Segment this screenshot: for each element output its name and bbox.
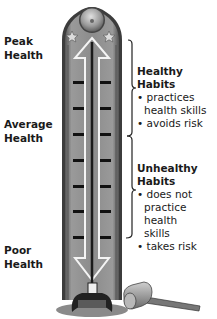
peak-line-1: Peak <box>4 34 43 48</box>
healthy-bullet-1: practices health skills <box>137 91 217 117</box>
unhealthy-bullet-2: takes risk <box>137 240 217 253</box>
poor-line-2: Health <box>4 257 43 271</box>
unhealthy-bullet-1: does not practice health skills <box>137 188 217 240</box>
mallet-icon <box>124 282 200 311</box>
peak-health-label: Peak Health <box>4 34 43 62</box>
average-health-label: Average Health <box>4 117 53 145</box>
healthy-habits-title: Healthy Habits <box>137 65 217 91</box>
healthy-bracket <box>127 40 136 136</box>
healthy-habits-block: Healthy Habits practices health skills a… <box>137 65 217 130</box>
bullet-text: takes risk <box>147 240 197 252</box>
bullet-text: practices <box>147 91 195 103</box>
unhealthy-bracket <box>126 136 136 238</box>
average-line-1: Average <box>4 117 53 131</box>
bullet-text: avoids risk <box>147 117 203 129</box>
bullet-text: skills <box>144 227 170 239</box>
title-line: Habits <box>137 175 175 187</box>
bullet-text: does not <box>147 188 193 200</box>
poor-health-label: Poor Health <box>4 243 43 271</box>
bell-icon <box>79 7 105 33</box>
healthy-bullet-2: avoids risk <box>137 117 217 130</box>
bullet-text: practice health <box>144 201 186 226</box>
average-line-2: Health <box>4 131 53 145</box>
unhealthy-habits-block: Unhealthy Habits does not practice healt… <box>137 162 217 253</box>
title-line: Unhealthy <box>137 162 198 174</box>
bullet-text: health skills <box>144 104 206 116</box>
peak-line-2: Health <box>4 48 43 62</box>
unhealthy-habits-title: Unhealthy Habits <box>137 162 217 188</box>
poor-line-1: Poor <box>4 243 43 257</box>
